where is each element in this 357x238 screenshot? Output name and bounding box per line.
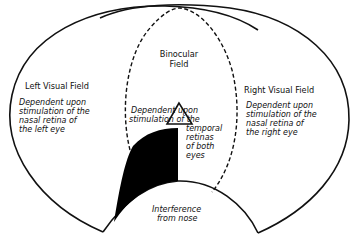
right-field-desc-line: nasal retina of: [246, 119, 305, 128]
left-field-desc-line: stimulation of the: [19, 107, 90, 116]
right-field-title: Right Visual Field: [244, 85, 314, 95]
visual-field-diagram: Binocular Field Left Visual Field Depend…: [0, 0, 357, 238]
left-field-desc-line: nasal retina of: [19, 116, 78, 125]
nose-interference-line: Interference: [152, 205, 201, 214]
left-field-desc-line: the left eye: [19, 125, 65, 134]
binocular-field-title-line2: Field: [170, 59, 189, 69]
center-desc-line: eyes: [186, 151, 205, 160]
binocular-field-title-line1: Binocular: [160, 49, 199, 59]
left-field-desc-line: Dependent upon: [19, 98, 86, 107]
center-desc-line: stimulation of the: [129, 115, 200, 124]
right-field-desc-line: stimulation of the: [246, 110, 317, 119]
center-desc-line: temporal: [186, 124, 223, 133]
right-field-desc-line: Dependent upon: [246, 101, 313, 110]
left-field-title: Left Visual Field: [25, 81, 89, 91]
center-desc-line: of both: [186, 142, 214, 151]
center-desc-line: Dependent upon: [131, 106, 198, 115]
nose-interference-line: from nose: [157, 214, 197, 223]
right-field-desc-line: the right eye: [246, 128, 298, 137]
center-desc-line: retinas: [186, 133, 214, 142]
